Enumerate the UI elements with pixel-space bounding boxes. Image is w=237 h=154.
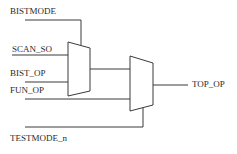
mux2-shape [130,56,153,111]
mux1-shape [68,42,90,96]
bistmode-wire [25,20,81,45]
testmode-n-wire [25,108,143,127]
bist-op-label: BIST_OP [10,69,46,78]
scan-so-label: SCAN_SO [12,45,52,54]
top-op-label: TOP_OP [192,80,225,89]
fun-op-label: FUN_OP [10,86,44,95]
testmode-n-label: TESTMODE_n [10,134,67,143]
bistmode-label: BISTMODE [10,7,56,16]
mux-diagram: BISTMODE SCAN_SO BIST_OP FUN_OP TESTMODE… [0,0,237,154]
